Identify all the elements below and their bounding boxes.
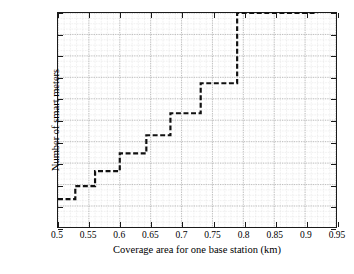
y-axis-title: Number of smart meters [50,69,61,171]
figure: 0.50.550.60.650.70.750.80.850.90.95 6008… [0,0,354,274]
x-axis-title: Coverage area for one base station (km) [57,244,337,255]
